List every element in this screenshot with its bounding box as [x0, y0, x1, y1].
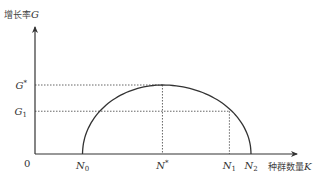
origin-label: 0 [24, 158, 30, 169]
x-axis-label-text: 种群数量 [268, 161, 304, 172]
guide-lines [35, 85, 229, 154]
x-axis-label-symbol: K [303, 161, 312, 172]
tick-label-gstar: G* [16, 79, 28, 91]
tick-label-g1: G1 [15, 106, 27, 119]
tick-label-nstar: N* [155, 159, 169, 171]
y-axis-label-symbol: G [31, 9, 39, 20]
growth-rate-chart: 增长率G 种群数量K 0 N0N*N1N2G*G1 [0, 0, 324, 184]
growth-curve [83, 85, 252, 154]
tick-labels: N0N*N1N2G*G1 [15, 79, 258, 173]
x-axis-label: 种群数量K [268, 161, 312, 172]
y-axis-label: 增长率G [4, 9, 39, 20]
tick-label-n1: N1 [222, 160, 236, 173]
tick-label-n0: N0 [75, 160, 89, 173]
y-axis-label-text: 增长率 [4, 9, 31, 20]
tick-label-n2: N2 [243, 160, 257, 173]
